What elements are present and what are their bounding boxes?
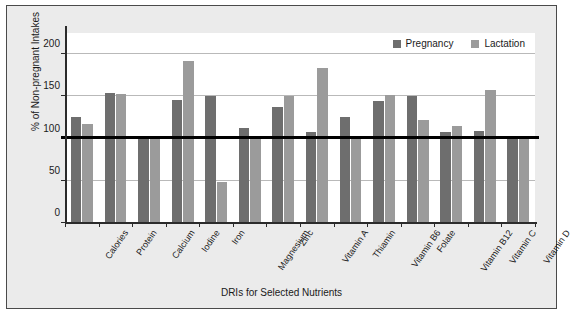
legend-label-pregnancy: Pregnancy — [406, 38, 454, 49]
plot-area: Pregnancy Lactation 050100150200 — [65, 33, 535, 223]
legend-swatch-pregnancy — [393, 40, 401, 48]
bar-lactation-calories — [82, 124, 92, 223]
bar-lactation-vitamin-c — [485, 90, 495, 223]
y-tick-label-0: 0 — [54, 207, 60, 218]
bar-pregnancy-vitamin-c — [474, 131, 484, 223]
bar-lactation-vitamin-b12 — [452, 126, 462, 223]
bar-pregnancy-folate — [407, 96, 417, 223]
y-tick-label-150: 150 — [43, 80, 60, 91]
x-tick-label-protein: Protein — [134, 228, 159, 257]
bar-group — [501, 33, 535, 223]
x-tick-label-iodine: Iodine — [200, 228, 222, 254]
legend-item-lactation[interactable]: Lactation — [471, 38, 525, 49]
bar-pregnancy-vitamin-a — [306, 132, 316, 223]
bar-lactation-magnesium — [250, 139, 260, 223]
x-tick-label-vitamin-d: Vitamin D — [541, 228, 571, 266]
chart-figure: % of Non-pregnant Intakes Pregnancy Lact… — [6, 5, 557, 309]
bar-pregnancy-thiamin — [340, 117, 350, 223]
bar-pregnancy-vitamin-b6 — [373, 101, 383, 223]
y-axis-line — [65, 26, 67, 223]
x-tick-label-vitamin-b12: Vitamin B12 — [478, 228, 514, 273]
bar-lactation-iron — [217, 182, 227, 223]
x-axis-title: DRIs for Selected Nutrients — [7, 287, 556, 298]
bar-group — [65, 33, 99, 223]
bar-pregnancy-vitamin-b12 — [440, 132, 450, 223]
bar-lactation-protein — [116, 94, 126, 223]
bar-group — [132, 33, 166, 223]
x-tick-label-vitamin-a: Vitamin A — [340, 228, 370, 265]
y-axis-title: % of Non-pregnant Intakes — [30, 0, 41, 162]
bar-lactation-vitamin-a — [317, 68, 327, 223]
bar-group — [266, 33, 300, 223]
bar-lactation-zinc — [284, 96, 294, 223]
bar-group — [233, 33, 267, 223]
x-tick-label-iron: Iron — [229, 228, 246, 246]
chart-legend: Pregnancy Lactation — [393, 38, 525, 49]
reference-line-100 — [61, 136, 539, 139]
x-axis-line — [65, 222, 537, 224]
y-tick-label-200: 200 — [43, 38, 60, 49]
bar-pregnancy-protein — [105, 93, 115, 223]
legend-item-pregnancy[interactable]: Pregnancy — [393, 38, 454, 49]
bar-group — [99, 33, 133, 223]
x-tick-label-calories: Calories — [103, 228, 130, 261]
bar-pregnancy-iodine — [172, 100, 182, 223]
bar-group — [468, 33, 502, 223]
y-tick-label-50: 50 — [49, 164, 60, 175]
bar-pregnancy-iron — [205, 96, 215, 223]
bar-pregnancy-magnesium — [239, 128, 249, 223]
bar-pregnancy-calories — [71, 117, 81, 223]
bar-lactation-calcium — [150, 139, 160, 223]
bar-lactation-thiamin — [351, 139, 361, 223]
bar-pregnancy-vitamin-d — [507, 139, 517, 223]
bar-group — [367, 33, 401, 223]
bar-lactation-vitamin-d — [519, 139, 529, 223]
x-tick-label-thiamin: Thiamin — [371, 228, 398, 260]
bar-group — [434, 33, 468, 223]
bar-group — [199, 33, 233, 223]
bar-pregnancy-calcium — [138, 139, 148, 223]
bar-lactation-iodine — [183, 61, 193, 223]
bar-group — [401, 33, 435, 223]
legend-label-lactation: Lactation — [484, 38, 525, 49]
legend-swatch-lactation — [471, 40, 479, 48]
bar-group — [166, 33, 200, 223]
bar-group — [300, 33, 334, 223]
y-tick-label-100: 100 — [43, 122, 60, 133]
bar-group — [334, 33, 368, 223]
x-tick-label-calcium: Calcium — [170, 228, 197, 260]
bar-lactation-vitamin-b6 — [385, 95, 395, 223]
bar-pregnancy-zinc — [272, 107, 282, 223]
